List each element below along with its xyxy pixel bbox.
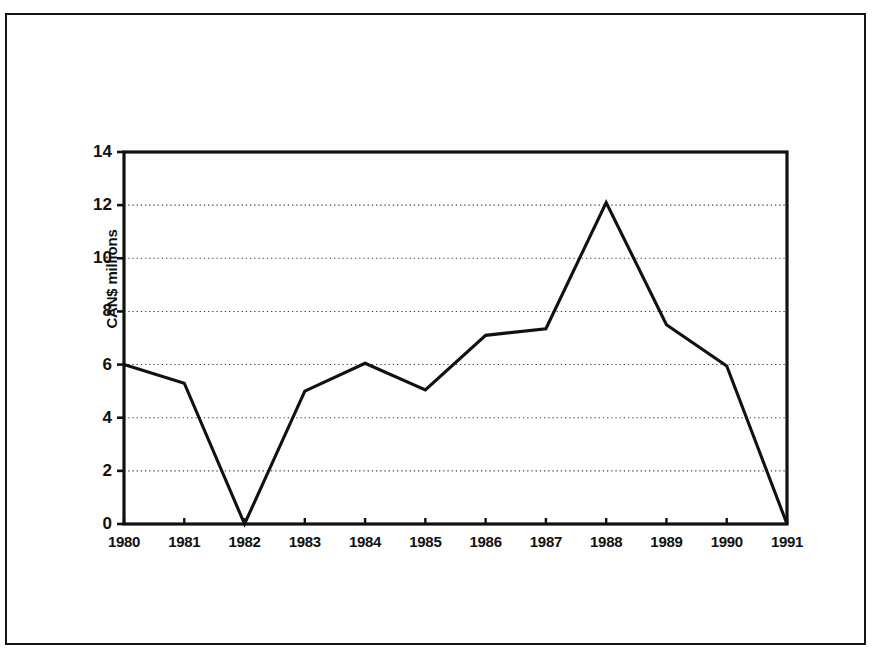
x-tick-label: 1980	[92, 532, 156, 552]
x-tick-label: 1991	[755, 532, 819, 552]
y-tick-label: 10	[76, 248, 112, 268]
x-tick-label: 1987	[514, 532, 578, 552]
y-tick-label: 0	[76, 514, 112, 534]
y-axis-title: CAN$ millions	[101, 214, 123, 344]
y-tick-label: 6	[76, 355, 112, 375]
x-tick-label: 1990	[695, 532, 759, 552]
x-tick-label: 1985	[393, 532, 457, 552]
x-tick-label: 1986	[454, 532, 518, 552]
data-series-line	[124, 202, 787, 524]
x-tick-label: 1982	[213, 532, 277, 552]
x-tick-label: 1984	[333, 532, 397, 552]
x-tick-label: 1989	[634, 532, 698, 552]
y-tick-label: 12	[76, 195, 112, 215]
y-tick-label: 8	[76, 301, 112, 321]
x-tick-label: 1981	[152, 532, 216, 552]
x-tick-label: 1983	[273, 532, 337, 552]
line-chart-plot	[0, 0, 875, 662]
y-tick-label: 2	[76, 461, 112, 481]
y-tick-label: 4	[76, 408, 112, 428]
y-tick-label: 14	[76, 142, 112, 162]
x-tick-label: 1988	[574, 532, 638, 552]
chart-figure: CAN$ millions 02468101214 19801981198219…	[0, 0, 875, 662]
